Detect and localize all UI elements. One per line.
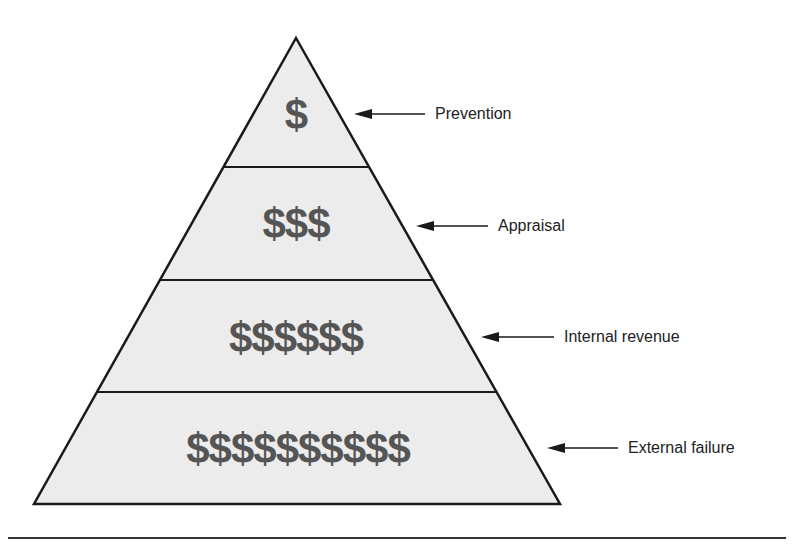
bottom-rule-divider [8, 537, 786, 539]
label-prevention: Prevention [435, 105, 512, 123]
level-prevention-cost-symbols: $ [285, 93, 307, 137]
level-appraisal-cost-symbols: $$$ [262, 202, 329, 246]
arrow-appraisal [416, 221, 488, 231]
label-internal-revenue: Internal revenue [564, 328, 680, 346]
arrow-prevention [354, 109, 425, 119]
level-external-failure-cost-symbols: $$$$$$$$$$ [186, 427, 410, 471]
arrow-internal-revenue [481, 332, 554, 342]
label-appraisal: Appraisal [498, 217, 565, 235]
label-external-failure: External failure [628, 439, 735, 457]
level-internal-revenue-cost-symbols: $$$$$$ [229, 316, 363, 360]
arrow-external-failure [547, 443, 618, 453]
